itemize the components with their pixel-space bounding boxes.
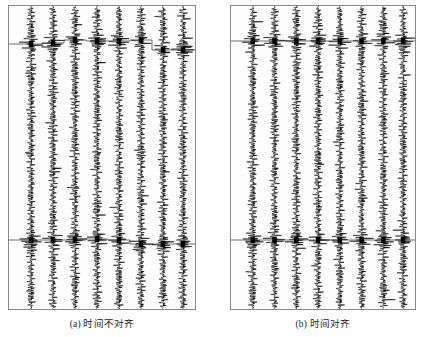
- seismic-traces-b: [231, 6, 415, 309]
- seismic-panel-a: [8, 5, 196, 310]
- panel-b-caption: (b) 时间对齐: [230, 316, 416, 330]
- seismic-panel-b: [230, 5, 416, 310]
- seismic-traces-a: [9, 6, 195, 309]
- seismic-comparison-figure: (a) 时间不对齐 (b) 时间对齐: [0, 0, 422, 337]
- panel-a-caption: (a) 时间不对齐: [8, 316, 196, 330]
